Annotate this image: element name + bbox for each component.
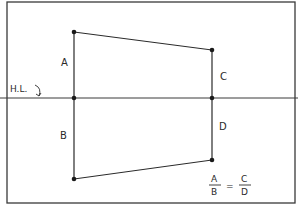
vertex-bottom-right xyxy=(210,158,215,163)
vertex-top-right xyxy=(210,48,215,53)
horizon-arrow-icon xyxy=(35,85,41,96)
formula-equals: = xyxy=(226,181,234,191)
frame-border xyxy=(7,2,295,203)
vertex-bottom-left xyxy=(72,177,77,182)
label-c: C xyxy=(220,71,227,82)
ratio-formula: A B = C D xyxy=(209,174,251,197)
formula-right-denominator: D xyxy=(241,187,248,197)
horizon-label: H.L. xyxy=(10,84,27,94)
formula-left-numerator: A xyxy=(211,174,218,184)
label-a: A xyxy=(61,57,68,68)
label-b: B xyxy=(60,130,67,141)
vertex-horizon-right xyxy=(210,96,215,101)
perspective-diagram: H.L. A B C D A B = C D xyxy=(0,0,298,208)
label-d: D xyxy=(219,121,227,132)
formula-left-denominator: B xyxy=(211,187,217,197)
formula-right-numerator: C xyxy=(241,174,247,184)
edge-top xyxy=(74,32,212,50)
vertex-horizon-left xyxy=(72,96,77,101)
edge-bottom xyxy=(74,160,212,179)
vertex-top-left xyxy=(72,30,77,35)
